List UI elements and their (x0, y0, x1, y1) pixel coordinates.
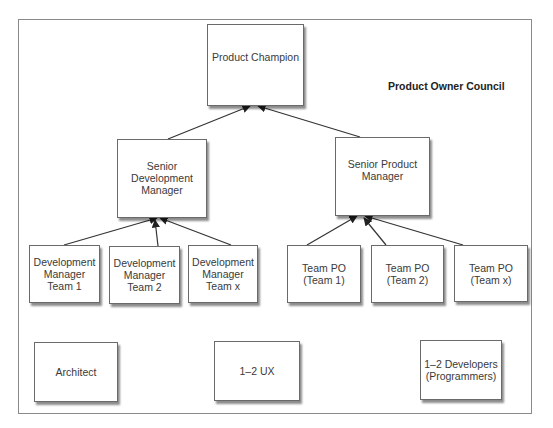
node-label: Development Manager Team x (192, 256, 254, 292)
node-development-manager-team-2: Development Manager Team 2 (109, 246, 180, 304)
node-development-manager-team-x: Development Manager Team x (188, 245, 258, 303)
node-architect: Architect (34, 342, 118, 402)
node-label: Team PO (Team x) (469, 262, 513, 286)
node-developers: 1–2 Developers (Programmers) (420, 340, 502, 400)
node-label: Team PO (Team 2) (386, 262, 430, 286)
node-team-po-team-2: Team PO (Team 2) (371, 245, 444, 303)
node-label: Team PO (Team 1) (302, 262, 346, 286)
node-development-manager-team-1: Development Manager Team 1 (29, 245, 100, 303)
node-label: Senior Development Manager (131, 160, 193, 196)
node-label: Product Champion (212, 51, 299, 63)
node-team-po-team-1: Team PO (Team 1) (287, 245, 361, 303)
node-label: 1–2 UX (239, 365, 274, 377)
group-label-product-owner-council: Product Owner Council (388, 80, 505, 92)
node-product-champion: Product Champion (207, 24, 304, 106)
node-label: Development Manager Team 1 (34, 256, 96, 292)
node-label: 1–2 Developers (Programmers) (424, 358, 498, 382)
node-label: Senior Product Manager (348, 158, 417, 182)
node-label: Architect (56, 366, 97, 378)
node-senior-development-manager: Senior Development Manager (117, 139, 207, 218)
node-ux: 1–2 UX (214, 341, 300, 401)
node-senior-product-manager: Senior Product Manager (335, 137, 430, 216)
node-team-po-team-x: Team PO (Team x) (454, 245, 528, 302)
node-label: Development Manager Team 2 (114, 257, 176, 293)
